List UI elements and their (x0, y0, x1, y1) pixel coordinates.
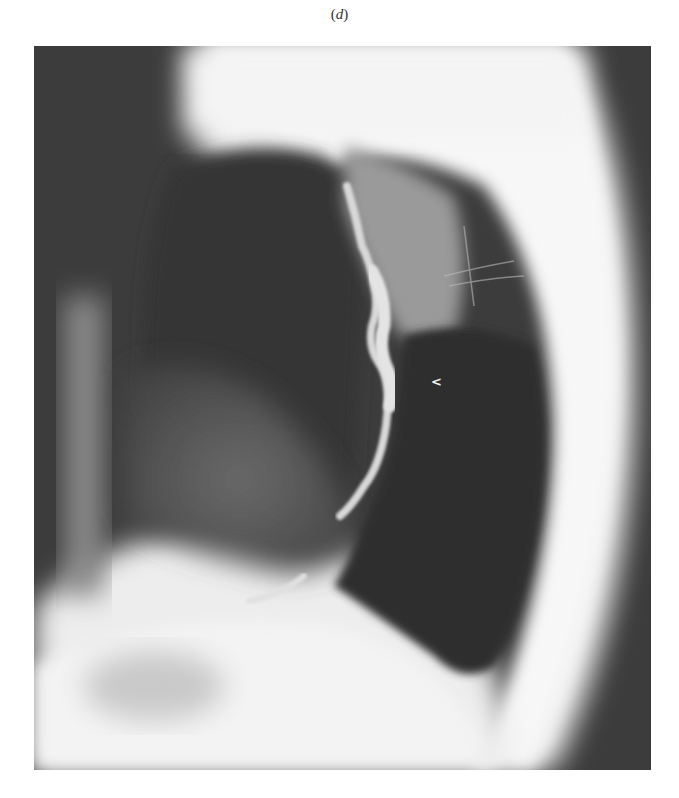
radiograph-svg (34, 46, 651, 770)
panel-label: (d) (0, 6, 679, 23)
panel-label-close: ) (343, 6, 348, 22)
annotation-arrow-marker: < (431, 374, 442, 389)
radiograph-image: < (34, 46, 651, 770)
